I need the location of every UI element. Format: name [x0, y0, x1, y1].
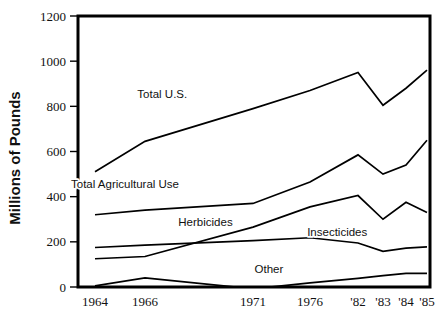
x-axis-ticks: 1964196619711976'82'83'84'85	[82, 294, 435, 309]
x-tick-label: 1976	[297, 294, 324, 309]
y-tick-label: 1200	[40, 9, 66, 24]
y-tick-label: 600	[47, 144, 67, 159]
x-tick-label: 1971	[240, 294, 266, 309]
y-tick-label: 200	[47, 234, 67, 249]
series-label-herbicides: Herbicides	[178, 216, 233, 228]
y-tick-label: 400	[47, 189, 67, 204]
x-tick-label: 1964	[82, 294, 109, 309]
series-label-insecticides: Insecticides	[307, 226, 367, 238]
series-label-total-u-s: Total U.S.	[137, 88, 187, 100]
y-axis-title: Millions of Pounds	[6, 91, 23, 224]
series-label-total-agricultural-use: Total Agricultural Use	[71, 178, 179, 190]
y-tick-label: 800	[47, 99, 67, 114]
x-tick-label: '83	[375, 294, 390, 309]
x-tick-label: '85	[419, 294, 434, 309]
x-tick-label: 1966	[132, 294, 159, 309]
series-label-other: Other	[255, 263, 284, 275]
y-tick-label: 1000	[40, 54, 66, 69]
pesticide-usage-line-chart: Millions of Pounds 020040060080010001200…	[0, 0, 447, 325]
y-tick-label: 0	[60, 280, 67, 295]
x-tick-label: '82	[350, 294, 365, 309]
x-tick-label: '84	[398, 294, 414, 309]
chart-container: Millions of Pounds 020040060080010001200…	[0, 0, 447, 325]
